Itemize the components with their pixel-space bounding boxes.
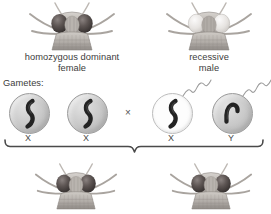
- chromosome-x-icon: [153, 94, 192, 133]
- parent-fly-female: [26, 0, 118, 52]
- gamete-sperm-y: [212, 93, 253, 134]
- gametes-label: Gametes:: [3, 78, 73, 89]
- combination-brace: [0, 136, 271, 158]
- chromosome-x-icon: [68, 94, 107, 133]
- gamete-egg-x-2: [67, 93, 108, 134]
- chromosome-y-icon: [213, 94, 252, 133]
- punnett-cross-diagram: homozygous dominant female recessive mal…: [0, 0, 271, 214]
- female-parent-label: homozygous dominant female: [2, 52, 142, 74]
- parent-fly-male: [163, 0, 255, 52]
- male-parent-label: recessive male: [150, 52, 268, 74]
- gamete-egg-x-1: [9, 93, 50, 134]
- offspring-fly-2: [167, 160, 255, 212]
- gamete-sperm-x: [152, 93, 193, 134]
- chromosome-x-icon: [10, 94, 49, 133]
- cross-symbol: ×: [122, 107, 134, 118]
- offspring-fly-1: [32, 160, 120, 212]
